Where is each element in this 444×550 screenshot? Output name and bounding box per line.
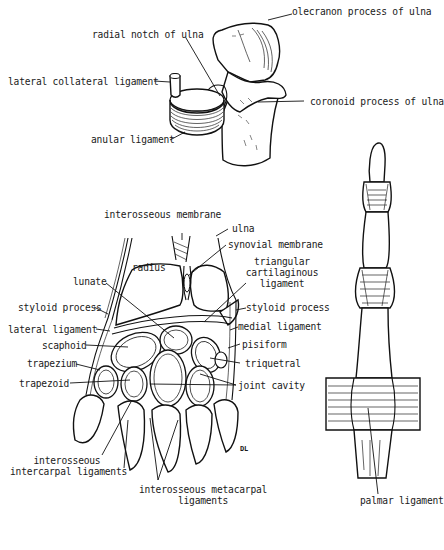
dip-joint <box>363 182 392 212</box>
finger-panel <box>326 143 420 494</box>
label-joint-cavity: joint cavity <box>238 380 305 391</box>
metacarpal-5 <box>214 400 238 452</box>
label-line: ligament <box>234 278 330 289</box>
label-anular-ligament: anular ligament <box>91 134 175 145</box>
label-triquetral: triquetral <box>245 358 301 369</box>
label-line: triangular <box>234 256 330 267</box>
artist-signature: DL <box>240 444 248 455</box>
proximal-phalanx <box>356 308 392 378</box>
label-interosseous-metacarpal-ligaments: interosseous metacarpal ligaments <box>136 484 270 506</box>
label-styloid-process-ulnar: styloid process <box>246 302 330 313</box>
radius-bone <box>116 264 183 325</box>
label-ulna: ulna <box>232 223 254 234</box>
label-interosseous-intercarpal-ligaments: interosseous intercarpal ligaments <box>10 455 124 477</box>
label-line: interosseous <box>10 455 124 466</box>
label-pisiform: pisiform <box>242 339 287 350</box>
metacarpal-3 <box>152 405 181 472</box>
label-line: ligaments <box>136 495 270 506</box>
distal-phalanx <box>369 143 385 182</box>
label-interosseous-membrane: interosseous membrane <box>104 209 221 220</box>
pip-joint <box>356 268 395 308</box>
capitate-bone <box>150 350 186 406</box>
metacarpal-1 <box>74 395 104 443</box>
label-lunate: lunate <box>73 276 106 287</box>
label-trapezium: trapezium <box>27 358 77 369</box>
label-synovial-membrane: synovial membrane <box>228 239 323 250</box>
label-medial-ligament: medial ligament <box>238 321 322 332</box>
metacarpal-4 <box>186 405 212 464</box>
label-triangular-cartilaginous-ligament: triangular cartilaginous ligament <box>234 256 330 289</box>
label-olecranon-process: olecranon process of ulna <box>292 6 431 17</box>
label-radius: radius <box>132 262 165 273</box>
label-palmar-ligament: palmar ligament <box>360 495 444 506</box>
label-line: intercarpal ligaments <box>10 466 124 477</box>
label-trapezoid: trapezoid <box>19 378 69 389</box>
label-coronoid-process: coronoid process of ulna <box>310 96 444 107</box>
interosseous-membrane <box>172 236 190 262</box>
label-line: cartilaginous <box>234 267 330 278</box>
label-scaphoid: scaphoid <box>42 340 87 351</box>
label-lateral-ligament: lateral ligament <box>8 324 97 335</box>
middle-phalanx <box>363 212 390 268</box>
label-styloid-process-radial: styloid process <box>18 302 102 313</box>
label-lateral-collateral-ligament: lateral collateral ligament <box>8 76 159 87</box>
label-line: interosseous metacarpal <box>136 484 270 495</box>
label-radial-notch: radial notch of ulna <box>92 29 204 40</box>
